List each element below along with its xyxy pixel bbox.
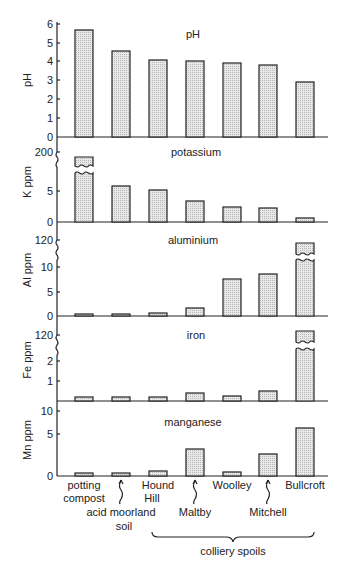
figure: 6 5 4 3 2 1 0 pH pH 200 5 0 K ppm potass…	[0, 0, 342, 565]
k-bar-potting-compost	[75, 157, 93, 222]
k-bar-bullcroft	[296, 218, 314, 222]
k-bar-hound-hill	[149, 190, 167, 222]
k-axis-break	[56, 152, 58, 167]
fe-tick-2: 2	[47, 355, 53, 367]
label-mitchell: Mitchell	[249, 506, 286, 518]
mn-tick-5: 5	[47, 428, 53, 440]
al-bar-acid-moorland	[112, 314, 130, 316]
al-tick-0: 0	[47, 310, 53, 322]
al-tick-120: 120	[35, 234, 53, 246]
al-bar-hound-hill	[149, 313, 167, 316]
fe-bar-woolley	[223, 396, 241, 401]
al-axis-break	[56, 240, 58, 260]
al-bar-woolley	[223, 279, 241, 316]
ph-tick-5: 5	[47, 37, 53, 49]
k-title: potassium	[171, 146, 221, 158]
iron-panel: 120 2 1 Fe ppm iron	[21, 316, 328, 401]
fe-y-label: Fe ppm	[21, 341, 33, 378]
k-tick-200: 200	[35, 146, 53, 158]
mn-y-label: Mn ppm	[21, 420, 33, 460]
al-bar-mitchell	[259, 274, 277, 316]
al-bar-bullcroft	[296, 243, 314, 316]
ph-bar-acid-moorland	[112, 51, 130, 137]
mn-bar-acid-moorland	[112, 473, 130, 476]
label-compost: compost	[63, 492, 105, 504]
k-tick-0: 0	[47, 216, 53, 228]
fe-title: iron	[187, 329, 205, 341]
label-maltby: Maltby	[179, 506, 212, 518]
label-bullcroft: Bullcroft	[285, 479, 325, 491]
mn-bar-woolley	[223, 472, 241, 476]
ph-bar-hound-hill	[149, 60, 167, 137]
ph-bar-maltby	[186, 61, 204, 137]
al-bar-maltby	[186, 308, 204, 316]
mn-title: manganese	[164, 416, 222, 428]
fe-tick-1: 1	[47, 375, 53, 387]
label-woolley: Woolley	[213, 479, 252, 491]
arrow-mitchell-icon	[266, 480, 270, 504]
fe-tick-120: 120	[35, 329, 53, 341]
mn-bar-bullcroft	[296, 428, 314, 476]
label-soil: soil	[116, 520, 133, 532]
fe-bar-acid-moorland	[112, 397, 130, 401]
k-bar-mitchell	[259, 208, 277, 222]
manganese-panel: 10 5 0 Mn ppm manganese	[21, 401, 328, 482]
mn-bar-maltby	[186, 449, 204, 476]
ph-bar-potting-compost	[75, 30, 93, 137]
fe-axis-break	[56, 335, 58, 355]
ph-tick-3: 3	[47, 74, 53, 86]
fe-bar-maltby	[186, 393, 204, 401]
arrow-acid-moorland-icon	[119, 480, 123, 504]
fe-bar-potting-compost	[75, 397, 93, 401]
mn-tick-10: 10	[41, 405, 53, 417]
fe-bar-bullcroft	[296, 331, 314, 401]
mn-bar-mitchell	[259, 454, 277, 476]
colliery-spoils-brace	[152, 532, 314, 542]
al-tick-10: 10	[41, 261, 53, 273]
ph-bar-woolley	[223, 63, 241, 137]
label-acid-moorland: acid moorland	[86, 506, 155, 518]
ph-panel: 6 5 4 3 2 1 0 pH pH	[21, 18, 328, 143]
ph-tick-1: 1	[47, 112, 53, 124]
ph-tick-0: 0	[47, 131, 53, 143]
mn-tick-0: 0	[47, 470, 53, 482]
label-potting: potting	[67, 479, 100, 491]
mn-bar-potting-compost	[75, 473, 93, 476]
al-tick-5: 5	[47, 286, 53, 298]
ph-tick-6: 6	[47, 18, 53, 30]
ph-bar-bullcroft	[296, 82, 314, 137]
aluminium-panel: 120 10 5 0 Al ppm aluminium	[21, 222, 328, 322]
al-y-label: Al ppm	[21, 253, 33, 287]
ph-tick-2: 2	[47, 93, 53, 105]
ph-y-label: pH	[21, 73, 33, 87]
mn-bar-hound-hill	[149, 471, 167, 476]
ph-bar-mitchell	[259, 65, 277, 137]
k-bar-maltby	[186, 201, 204, 222]
k-y-label: K ppm	[21, 166, 33, 198]
k-bar-woolley	[223, 207, 241, 222]
al-bar-potting-compost	[75, 314, 93, 316]
ph-tick-4: 4	[47, 55, 53, 67]
arrow-maltby-icon	[193, 480, 197, 504]
ph-title: pH	[186, 28, 200, 40]
label-colliery-spoils: colliery spoils	[200, 545, 266, 557]
fe-bar-hound-hill	[149, 397, 167, 401]
label-hound: Hound	[142, 479, 174, 491]
k-tick-5: 5	[47, 185, 53, 197]
fe-bar-mitchell	[259, 391, 277, 401]
k-bar-acid-moorland	[112, 186, 130, 222]
al-title: aluminium	[168, 234, 218, 246]
potassium-panel: 200 5 0 K ppm potassium	[21, 137, 328, 228]
label-hill: Hill	[144, 492, 159, 504]
x-axis-labels: potting compost acid moorland soil Hound…	[63, 479, 325, 557]
